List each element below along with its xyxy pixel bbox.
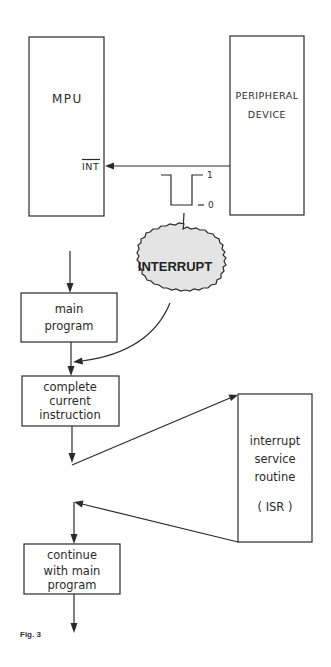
figure-caption: Fig. 3	[20, 630, 41, 639]
main-program-line2: program	[44, 319, 93, 333]
isr-box	[238, 394, 312, 542]
main-to-complete-arrow	[68, 342, 75, 376]
arrowhead-icon	[74, 501, 84, 508]
arrowhead-icon	[73, 358, 83, 365]
interrupt-cloud: INTERRUPT	[137, 223, 226, 291]
peripheral-box	[230, 36, 304, 215]
arrowhead-icon	[67, 283, 74, 293]
pulse-low-label: 0	[208, 200, 214, 210]
complete-line2: current	[49, 394, 91, 408]
continue-main-block: continue with main program	[24, 544, 120, 594]
pulse-high-label: 1	[207, 170, 213, 180]
continue-line1: continue	[47, 548, 97, 562]
exit-arrow	[71, 594, 78, 633]
interrupt-diagram: MPU INT PERIPHERAL DEVICE 1 0 INTERRUPT	[0, 0, 331, 667]
peripheral-label-line1: PERIPHERAL	[235, 90, 298, 101]
mpu-block: MPU INT	[29, 37, 104, 216]
mpu-label: MPU	[52, 92, 83, 106]
main-program-line1: main	[55, 302, 84, 316]
isr-block: interrupt service routine ( ISR )	[238, 394, 312, 542]
arrowhead-icon	[68, 366, 75, 376]
isr-line1: interrupt	[250, 434, 301, 448]
arrowhead-icon	[71, 623, 78, 633]
isr-line4: ( ISR )	[258, 500, 293, 514]
arrowhead-icon	[105, 163, 114, 170]
entry-arrow	[67, 251, 74, 293]
int-pin-label: INT	[82, 161, 99, 172]
isr-return-arrow	[71, 501, 239, 545]
cloud-shape	[137, 223, 226, 291]
complete-instruction-block: complete current instruction	[22, 376, 119, 426]
isr-line3: routine	[255, 470, 296, 484]
complete-line3: instruction	[39, 408, 100, 422]
arrowhead-icon	[71, 534, 78, 544]
pulse-waveform: 1 0	[161, 170, 214, 230]
main-program-box	[21, 293, 117, 342]
int-signal-arrow	[105, 163, 230, 170]
arrowhead-icon	[69, 453, 76, 463]
arrowhead-icon	[229, 395, 239, 402]
peripheral-block: PERIPHERAL DEVICE	[230, 36, 304, 215]
isr-line2: service	[254, 452, 295, 466]
main-program-block: main program	[21, 293, 117, 342]
continue-line2: with main	[44, 564, 101, 578]
complete-line1: complete	[43, 380, 97, 394]
interrupt-label: INTERRUPT	[138, 259, 212, 274]
mpu-box	[29, 37, 104, 216]
continue-line3: program	[47, 578, 96, 592]
peripheral-label-line2: DEVICE	[248, 109, 286, 120]
